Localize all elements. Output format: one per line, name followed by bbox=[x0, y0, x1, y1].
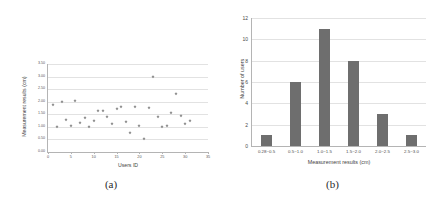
bar-gridline bbox=[252, 125, 426, 126]
bar-rect bbox=[290, 82, 302, 146]
bar-rect bbox=[406, 135, 418, 146]
panel-a-caption: (a) bbox=[0, 178, 222, 190]
scatter-point bbox=[115, 107, 118, 110]
scatter-x-tick-label: 30 bbox=[178, 156, 192, 160]
scatter-y-tick-label: 0.00 bbox=[29, 150, 45, 154]
bar-gridline bbox=[252, 18, 426, 19]
scatter-y-tick-label: 2.00 bbox=[29, 100, 45, 104]
scatter-x-tick-mark bbox=[208, 152, 209, 154]
bar-gridline bbox=[252, 103, 426, 104]
scatter-y-axis bbox=[47, 64, 48, 152]
scatter-x-axis-title: Users ID bbox=[48, 163, 208, 168]
scatter-x-tick-label: 5 bbox=[64, 156, 78, 160]
scatter-x-tick-mark bbox=[48, 152, 49, 154]
scatter-y-tick-label: 0.50 bbox=[29, 138, 45, 142]
scatter-gridline bbox=[48, 139, 208, 140]
bar-rect bbox=[348, 61, 360, 146]
bar-x-axis-title: Measurement results (cm) bbox=[252, 160, 426, 165]
scatter-x-tick-label: 0 bbox=[41, 156, 55, 160]
bar-gridline bbox=[252, 61, 426, 62]
bar-gridline bbox=[252, 39, 426, 40]
scatter-y-axis-title: Measurement results (cm) bbox=[22, 63, 27, 151]
scatter-x-tick-mark bbox=[162, 152, 163, 154]
bar-gridline bbox=[252, 82, 426, 83]
scatter-x-tick-label: 10 bbox=[87, 156, 101, 160]
bar-y-tick-label: 0 bbox=[236, 144, 248, 149]
scatter-y-tick-label: 1.50 bbox=[29, 112, 45, 116]
bar-rect bbox=[377, 114, 389, 146]
scatter-gridline bbox=[48, 114, 208, 115]
bar-x-axis bbox=[251, 146, 426, 147]
bar-plot-area: 024681012 0.28~0.50.5~1.01.0~1.51.5~2.02… bbox=[252, 18, 426, 146]
scatter-x-tick-mark bbox=[94, 152, 95, 154]
scatter-gridline bbox=[48, 89, 208, 90]
scatter-gridline bbox=[48, 64, 208, 65]
panel-a-scatter: 0.000.501.001.502.002.503.003.50 0510152… bbox=[0, 0, 222, 208]
scatter-y-tick-label: 3.00 bbox=[29, 75, 45, 79]
scatter-x-tick-mark bbox=[139, 152, 140, 154]
scatter-x-tick-label: 25 bbox=[155, 156, 169, 160]
scatter-x-tick-label: 20 bbox=[132, 156, 146, 160]
scatter-point bbox=[51, 103, 54, 106]
scatter-y-tick-label: 2.50 bbox=[29, 87, 45, 91]
figure-container: 0.000.501.001.502.002.503.003.50 0510152… bbox=[0, 0, 443, 208]
panel-b-caption: (b) bbox=[222, 178, 443, 190]
scatter-x-tick-mark bbox=[117, 152, 118, 154]
scatter-gridline bbox=[48, 77, 208, 78]
scatter-gridline bbox=[48, 127, 208, 128]
scatter-x-tick-label: 15 bbox=[110, 156, 124, 160]
scatter-y-tick-label: 3.50 bbox=[29, 62, 45, 66]
scatter-x-tick-label: 35 bbox=[201, 156, 215, 160]
panel-b-bar: 024681012 0.28~0.50.5~1.01.0~1.51.5~2.02… bbox=[222, 0, 443, 208]
bar-y-axis bbox=[251, 18, 252, 146]
bar-rect bbox=[261, 135, 273, 146]
bar-y-axis-title: Number of users bbox=[240, 15, 245, 143]
scatter-gridline bbox=[48, 102, 208, 103]
scatter-x-tick-mark bbox=[185, 152, 186, 154]
scatter-plot-area: 0.000.501.001.502.002.503.003.50 0510152… bbox=[48, 64, 208, 152]
bar-rect bbox=[319, 29, 331, 146]
scatter-point bbox=[188, 119, 191, 122]
scatter-x-tick-mark bbox=[71, 152, 72, 154]
scatter-y-tick-label: 1.00 bbox=[29, 125, 45, 129]
bar-x-tick-label: 2.5~3.0 bbox=[394, 150, 429, 154]
